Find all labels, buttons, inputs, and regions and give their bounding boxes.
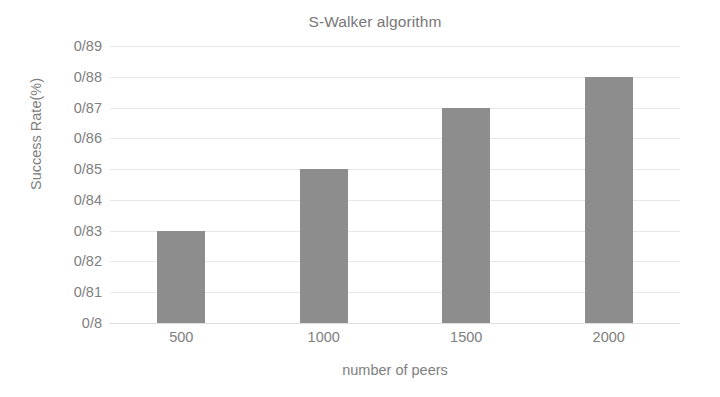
y-axis-title: Success Rate(%): [28, 34, 44, 234]
y-axis-tick-label: 0/85: [50, 162, 102, 177]
y-axis-tick-label: 0/83: [50, 223, 102, 238]
bar: [442, 108, 490, 323]
y-axis-tick-label: 0/88: [50, 70, 102, 85]
y-axis-tick-label: 0/81: [50, 285, 102, 300]
x-axis-tick-label: 1500: [421, 329, 511, 345]
y-axis-tick-label: 0/8: [50, 316, 102, 331]
y-axis-tick-label: 0/89: [50, 39, 102, 54]
gridline: [110, 323, 680, 324]
y-axis-tick-label: 0/82: [50, 254, 102, 269]
chart-title: S-Walker algorithm: [110, 13, 640, 31]
x-axis-tick-label: 500: [136, 329, 226, 345]
plot-area: [110, 46, 680, 323]
bar: [300, 169, 348, 323]
y-axis-tick-label: 0/87: [50, 100, 102, 115]
bar: [157, 231, 205, 323]
x-axis-tick-label: 2000: [564, 329, 654, 345]
x-axis-title: number of peers: [110, 362, 680, 378]
bar-chart: S-Walker algorithm Success Rate(%) 0/890…: [0, 0, 720, 397]
gridline: [110, 46, 680, 47]
y-axis-tick-labels: 0/890/880/870/860/850/840/830/820/810/8: [46, 0, 102, 397]
x-axis-tick-label: 1000: [279, 329, 369, 345]
y-axis-tick-label: 0/84: [50, 193, 102, 208]
y-axis-tick-label: 0/86: [50, 131, 102, 146]
bar: [585, 77, 633, 323]
